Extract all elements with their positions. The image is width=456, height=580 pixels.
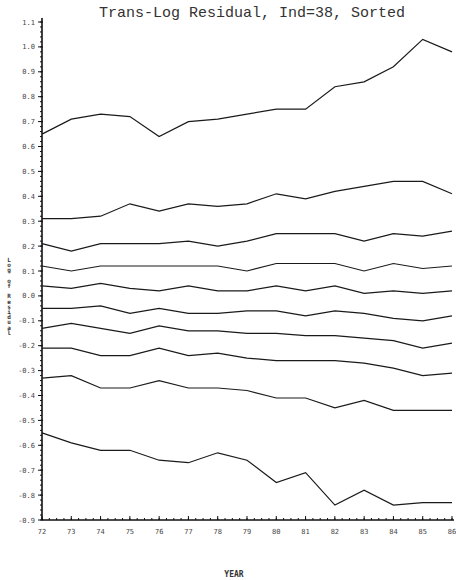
chart-title: Trans-Log Residual, Ind=38, Sorted [99,5,405,22]
y-axis: 1.11.00.90.80.70.60.50.40.30.20.10.0-0.1… [18,18,43,525]
y-tick-label: 0.1 [22,268,35,276]
line-series-5 [42,283,452,293]
y-tick-label: 0.0 [22,292,35,300]
y-tick-label: -0.4 [18,392,35,400]
y-tick-label: -0.9 [18,517,35,525]
y-tick-label: 1.1 [22,19,35,27]
x-tick-label: 84 [389,528,397,536]
x-tick-label: 73 [67,528,75,536]
x-tick-label: 85 [418,528,426,536]
line-series-4 [42,264,452,272]
line-series-6 [42,306,452,321]
x-tick-label: 86 [448,528,456,536]
y-tick-label: -0.6 [18,442,35,450]
x-tick-label: 82 [331,528,339,536]
x-tick-label: 74 [96,528,104,536]
x-tick-label: 83 [360,528,368,536]
line-series-10 [42,433,452,505]
y-tick-label: 1.0 [22,43,35,51]
y-tick-label: 0.2 [22,243,35,251]
x-tick-label: 75 [126,528,134,536]
y-tick-label: 0.9 [22,68,35,76]
y-tick-label: -0.2 [18,342,35,350]
y-tick-label: -0.5 [18,417,35,425]
line-series-7 [42,323,452,348]
x-tick-label: 76 [155,528,163,536]
y-tick-label: -0.7 [18,467,35,475]
line-series-3 [42,231,452,251]
line-series-9 [42,376,452,411]
x-tick-label: 78 [213,528,221,536]
y-tick-label: 0.5 [22,168,35,176]
y-tick-label: 0.4 [22,193,35,201]
x-axis-label: YEAR [224,570,243,579]
line-chart: Trans-Log Residual, Ind=38, Sorted 1.11.… [0,0,456,580]
x-tick-label: 77 [184,528,192,536]
line-series-1 [42,39,452,136]
x-tick-label: 79 [243,528,251,536]
x-tick-label: 72 [38,528,46,536]
y-tick-label: 0.7 [22,118,35,126]
plot-area [42,39,452,505]
y-tick-label: 0.3 [22,218,35,226]
y-tick-label: -0.3 [18,367,35,375]
y-axis-label: Log of Residual [7,256,11,336]
y-tick-label: -0.8 [18,492,35,500]
x-tick-label: 81 [301,528,309,536]
x-axis: 727374757677787980818283848586 [38,516,456,536]
y-tick-label: 0.6 [22,143,35,151]
line-series-2 [42,181,452,218]
x-tick-label: 80 [272,528,280,536]
y-tick-label: 0.8 [22,93,35,101]
y-tick-label: -0.1 [18,317,35,325]
line-series-8 [42,348,452,375]
